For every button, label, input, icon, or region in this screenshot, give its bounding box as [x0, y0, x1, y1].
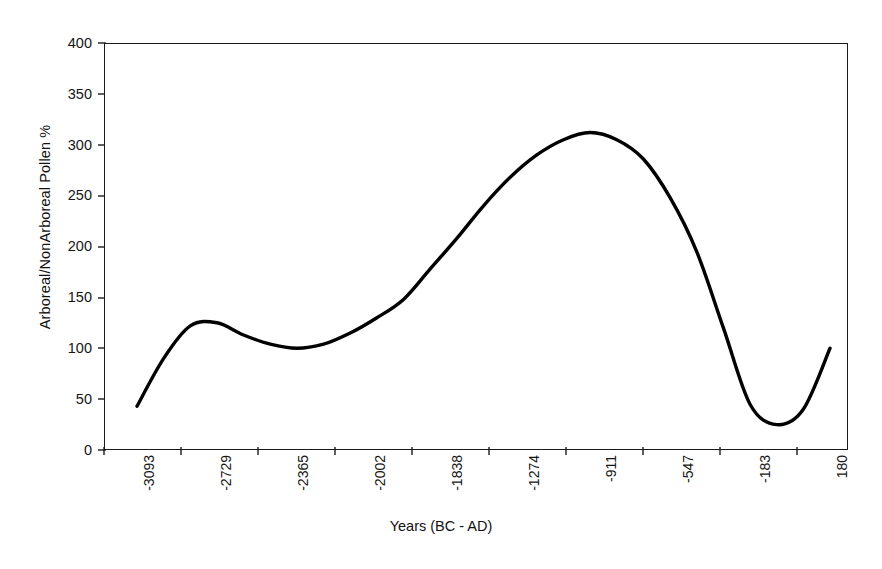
y-tick-label: 100	[46, 341, 92, 356]
x-tick-label: -911	[603, 455, 619, 515]
x-tick-label: -183	[757, 455, 773, 515]
x-tick-label: -2365	[295, 455, 311, 515]
x-tick-label: 180	[834, 455, 850, 515]
x-tick-label: -3093	[141, 455, 157, 515]
y-tick-label: 50	[46, 392, 92, 407]
y-tick-label: 250	[46, 188, 92, 203]
pollen-line-chart: Arboreal/NonArboreal Pollen % 400 350 30…	[0, 0, 882, 569]
x-axis-tick-labels: -3093 -2729 -2365 -2002 -1838 -1274 -911…	[104, 455, 848, 515]
y-tick-label: 400	[46, 36, 92, 51]
y-tick-label: 150	[46, 290, 92, 305]
y-tick-label: 300	[46, 138, 92, 153]
data-curve-layer	[104, 43, 848, 450]
x-tick-label: -1274	[526, 455, 542, 515]
x-tick-label: -1838	[449, 455, 465, 515]
x-tick-label: -2729	[218, 455, 234, 515]
x-tick-label: -547	[680, 455, 696, 515]
x-tick-label: -2002	[372, 455, 388, 515]
y-axis-tick-labels: 400 350 300 250 200 150 100 50 0	[46, 0, 92, 569]
y-tick-label: 350	[46, 87, 92, 102]
y-tick-label: 0	[46, 443, 92, 458]
y-tick-label: 200	[46, 239, 92, 254]
x-axis-title: Years (BC - AD)	[0, 518, 882, 534]
pollen-curve-path	[137, 133, 830, 425]
